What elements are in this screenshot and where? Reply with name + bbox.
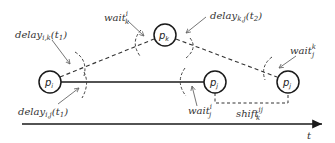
- time-axis-label: t: [307, 130, 312, 141]
- shift-bracket: [215, 93, 288, 103]
- node-p-k: pk: [154, 24, 176, 46]
- leader-wait-jk: [279, 56, 296, 68]
- label-delay-kj: delayk,j(t2): [210, 10, 262, 23]
- arc-wait-ki: [135, 30, 141, 56]
- node-p-i: pi: [39, 71, 61, 93]
- leader-wait-ki: [128, 21, 144, 36]
- label-shift-kij: shiftijk: [236, 106, 264, 122]
- label-wait-ji: waitij: [188, 103, 212, 119]
- edge-pi-pk-dashed: [60, 39, 154, 77]
- leader-delay-ik: [52, 40, 70, 64]
- arc-delay-kj: [186, 38, 193, 58]
- label-delay-ij: delayi,j(t1): [18, 106, 68, 119]
- label-wait-ki: waitik: [104, 10, 129, 26]
- node-p-j-first: pj: [204, 71, 226, 93]
- leader-wait-ji: [192, 86, 197, 106]
- leader-delay-kj: [186, 17, 206, 33]
- timing-diagram: t pi pk pj pj delayi,k(t1) delayi,j(t1): [0, 0, 335, 143]
- arc-delay-ik: [75, 52, 85, 76]
- edge-pk-pj-dashed: [176, 39, 277, 77]
- arc-wait-jk: [264, 57, 272, 80]
- label-delay-ik: delayi,k(t1): [15, 29, 67, 42]
- label-wait-jk: waitkj: [290, 43, 316, 59]
- node-p-j-second: pj: [277, 71, 299, 93]
- leader-delay-ij: [58, 88, 79, 104]
